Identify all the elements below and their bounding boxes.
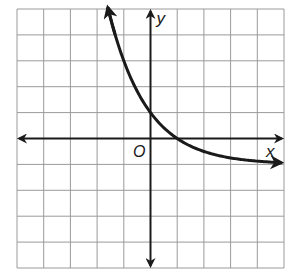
curve-start-arrow [108,7,115,34]
exponential-graph: y x O [0,0,286,272]
x-axis-label: x [265,142,275,161]
origin-label: O [133,143,145,160]
axes [19,11,282,266]
y-axis-label: y [156,9,167,28]
